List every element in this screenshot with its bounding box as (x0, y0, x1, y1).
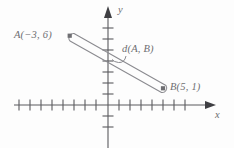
point-label-a: A(−3, 6) (14, 30, 52, 41)
point-marker-b (161, 86, 165, 90)
coordinate-plane-svg (0, 0, 234, 148)
coordinate-plane-figure: A(−3, 6) B(5, 1) d(A, B) y x (0, 0, 234, 148)
point-label-b: B(5, 1) (170, 82, 201, 93)
x-axis-label: x (215, 110, 220, 121)
point-marker-a (68, 34, 72, 38)
y-axis-label: y (118, 5, 123, 16)
distance-label: d(A, B) (122, 44, 154, 55)
x-axis (14, 100, 216, 111)
y-axis (103, 6, 114, 148)
